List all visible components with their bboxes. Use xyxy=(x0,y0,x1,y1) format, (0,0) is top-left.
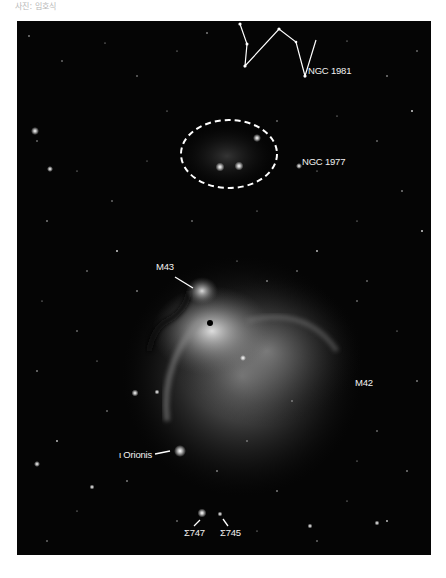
nebula-illustration xyxy=(17,21,431,555)
label-ngc1981: NGC 1981 xyxy=(308,65,351,76)
label-iota-orionis: ι Orionis xyxy=(119,449,152,460)
sigma747-pointer xyxy=(194,520,200,526)
ngc1981-outline xyxy=(240,24,316,76)
label-ngc1977: NGC 1977 xyxy=(302,156,345,167)
orion-nebula-photo: NGC 1981 NGC 1977 M43 M42 ι Orionis Σ747… xyxy=(17,21,431,555)
sigma745-pointer xyxy=(223,519,228,526)
label-sigma745: Σ745 xyxy=(220,527,241,538)
label-sigma747: Σ747 xyxy=(184,527,205,538)
ngc1981-stars xyxy=(238,22,306,77)
m43-glow xyxy=(186,277,218,305)
label-m43: M43 xyxy=(156,261,174,272)
photo-credit-caption: 사진: 임호식 xyxy=(15,0,57,11)
trapezium-dark-spot xyxy=(207,320,213,326)
label-m42: M42 xyxy=(355,377,373,388)
